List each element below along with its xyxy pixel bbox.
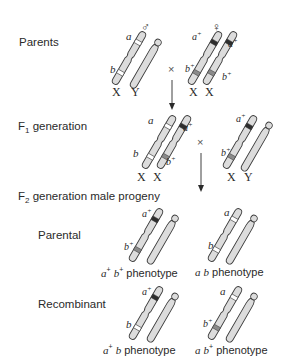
allele-label-b-plus: b+ — [221, 146, 231, 158]
chromosome-label-x: X — [112, 85, 121, 100]
allele-label-b-plus: b+ — [124, 240, 134, 252]
allele-label-a: a — [148, 114, 154, 126]
chromosome-label-x: X — [227, 170, 236, 185]
allele-label-b-plus: b+ — [203, 317, 213, 329]
allele-label-a-plus: a+ — [228, 37, 238, 49]
arrowhead-1 — [169, 103, 175, 110]
allele-label-a-plus: a+ — [236, 112, 246, 124]
allele-label-a-plus: a+ — [192, 30, 202, 42]
phenotype-recombinant-2: a b+ phenotype — [195, 343, 268, 356]
allele-label-b: b — [133, 147, 139, 159]
cross-symbol-2: × — [197, 136, 203, 148]
phenotype-parental-1: a+ b+ phenotype — [101, 266, 178, 279]
allele-label-a: a — [126, 30, 132, 42]
chromosome-label-x: X — [205, 85, 214, 100]
allele-label-b: b — [110, 63, 116, 75]
chromosome-label-y: Y — [244, 170, 253, 185]
male-symbol-icon: ♂ — [141, 20, 150, 34]
arrowhead-2 — [198, 185, 204, 192]
chromosome-label-x: X — [189, 85, 198, 100]
phenotype-parental-2: a b phenotype — [195, 266, 264, 278]
allele-label-b-plus: b+ — [166, 155, 176, 167]
allele-label-b-plus: b+ — [185, 62, 195, 74]
allele-label-a-plus: a+ — [183, 121, 193, 133]
chromosome-label-x: X — [153, 170, 162, 185]
allele-label-a: a — [220, 285, 226, 297]
chromosome-label-x: X — [137, 170, 146, 185]
allele-label-a-plus: a+ — [142, 207, 152, 219]
phenotype-recombinant-1: a+ b phenotype — [103, 343, 176, 356]
allele-label-b-plus: b+ — [222, 70, 232, 82]
cross-symbol-1: × — [168, 63, 174, 75]
allele-label-a-plus: a+ — [142, 285, 152, 297]
allele-label-b: b — [208, 239, 214, 251]
chromosome-label-y: Y — [131, 85, 140, 100]
female-symbol-icon: ♀ — [212, 20, 221, 34]
allele-label-a: a — [224, 206, 230, 218]
allele-label-b: b — [126, 318, 132, 330]
